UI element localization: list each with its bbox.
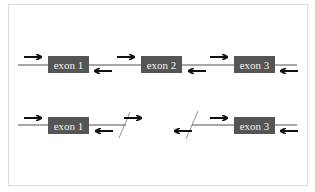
exon-3-box: exon 3 [234,56,275,73]
exon-3-label: exon 3 [240,59,270,71]
row-deleted-gene: exon 1 exon 3 [18,111,298,139]
exon-1-box: exon 1 [48,117,89,134]
exon-1-label: exon 1 [54,59,84,71]
exon-1-box: exon 1 [48,56,89,73]
exon-1-label: exon 1 [54,120,84,132]
exon-3-label: exon 3 [240,120,270,132]
row-full-gene: exon 1 exon 2 exon 3 [18,56,298,73]
exon-3-box: exon 3 [234,117,275,134]
gene-diagram: exon 1 exon 2 exon 3 exon 1 exon 3 [0,0,315,192]
exon-2-box: exon 2 [141,56,182,73]
exon-2-label: exon 2 [147,59,177,71]
